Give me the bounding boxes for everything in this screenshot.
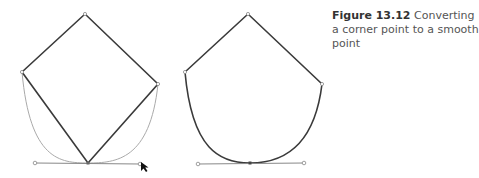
anchor-point-bottom[interactable] (249, 162, 252, 165)
anchor-point-top[interactable] (83, 12, 86, 15)
handle-point-left[interactable] (33, 161, 37, 165)
anchor-point-right[interactable] (156, 82, 159, 85)
figure-caption: Figure 13.12 Converting a corner point t… (332, 9, 479, 51)
handle-point-right[interactable] (302, 161, 306, 165)
anchor-point-top[interactable] (246, 12, 249, 15)
preview-curve (22, 72, 158, 163)
anchor-point-left[interactable] (183, 70, 186, 73)
smooth-point-figure (183, 12, 323, 165)
anchor-point-bottom[interactable] (87, 162, 90, 165)
diamond-path (22, 14, 158, 163)
figure-label: Figure 13.12 (332, 9, 411, 22)
anchor-point-left[interactable] (20, 70, 23, 73)
corner-point-figure (20, 12, 159, 172)
anchor-point-right[interactable] (320, 82, 323, 85)
handle-point-left[interactable] (196, 162, 200, 166)
smooth-path (185, 14, 322, 163)
cursor-arrow-icon (141, 162, 149, 172)
